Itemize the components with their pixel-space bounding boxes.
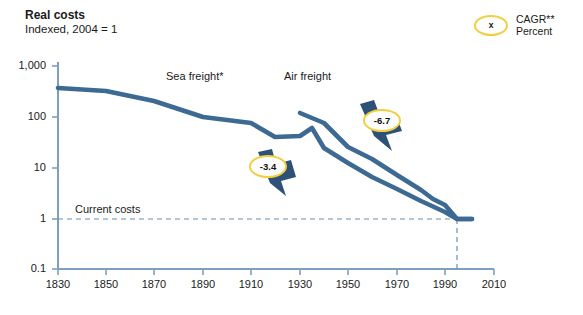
cagr-bubble-air-freight: -6.7 (363, 109, 401, 132)
y-tick-label: 1 (0, 212, 46, 224)
y-tick-label: 10 (0, 161, 46, 173)
x-tick-label: 1930 (277, 278, 323, 290)
cagr-bubble-sea-freight: -3.4 (249, 155, 287, 178)
x-tick-label: 1970 (374, 278, 420, 290)
baseline-label: Current costs (75, 203, 140, 215)
y-tick-label: 100 (0, 110, 46, 122)
x-tick-label: 1950 (325, 278, 371, 290)
x-tick-label: 1870 (131, 278, 177, 290)
plot-area: 1,000 100 10 1 0.1 1830 1850 1870 1890 1… (0, 0, 583, 315)
x-tick-label: 1910 (228, 278, 274, 290)
y-tick-label: 0.1 (0, 262, 46, 274)
series-label-sea-freight: Sea freight* (166, 70, 223, 82)
x-tick-label: 1850 (83, 278, 129, 290)
chart-container: Real costs Indexed, 2004 = 1 x CAGR** Pe… (0, 0, 583, 315)
x-tick-label: 2010 (471, 278, 517, 290)
x-tick-label: 1890 (180, 278, 226, 290)
chart-svg (0, 0, 583, 315)
series-label-air-freight: Air freight (284, 70, 331, 82)
x-tick-label: 1830 (35, 278, 81, 290)
x-tick-label: 1990 (422, 278, 468, 290)
y-tick-label: 1,000 (0, 59, 46, 71)
